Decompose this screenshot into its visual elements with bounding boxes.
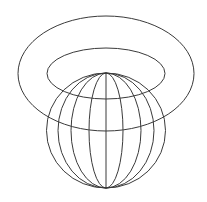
sphere <box>47 73 166 188</box>
torus-sphere-diagram <box>0 0 207 202</box>
diagram-svg <box>0 0 207 202</box>
